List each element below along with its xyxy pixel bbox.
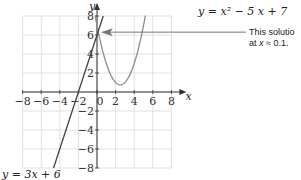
svg-text:−6: −6 xyxy=(33,95,49,108)
svg-text:2: 2 xyxy=(112,95,119,108)
svg-text:2: 2 xyxy=(87,67,94,80)
annotation-line-1: This solutio xyxy=(249,27,295,38)
svg-text:0: 0 xyxy=(97,95,104,108)
svg-text:−4: −4 xyxy=(52,95,68,108)
annotation-text: This solutio at x ≈ 0.1. xyxy=(249,27,295,49)
svg-text:8: 8 xyxy=(168,95,175,108)
svg-text:−8: −8 xyxy=(78,162,94,175)
svg-text:6: 6 xyxy=(87,29,94,42)
svg-text:−4: −4 xyxy=(78,124,94,137)
svg-text:8: 8 xyxy=(87,10,94,23)
svg-text:4: 4 xyxy=(131,95,138,108)
svg-text:x: x xyxy=(185,90,192,103)
svg-text:6: 6 xyxy=(149,95,156,108)
svg-text:−2: −2 xyxy=(78,105,94,118)
line-equation-label: y = 3x + 6 xyxy=(1,168,61,180)
axes: yx xyxy=(23,0,193,168)
parabola-curve xyxy=(95,16,145,85)
svg-text:−8: −8 xyxy=(14,95,30,108)
parabola-equation-label: y = x² − 5 x + 7 xyxy=(197,5,287,18)
svg-text:−6: −6 xyxy=(78,143,94,156)
annotation-line-2: at x ≈ 0.1. xyxy=(249,38,295,49)
